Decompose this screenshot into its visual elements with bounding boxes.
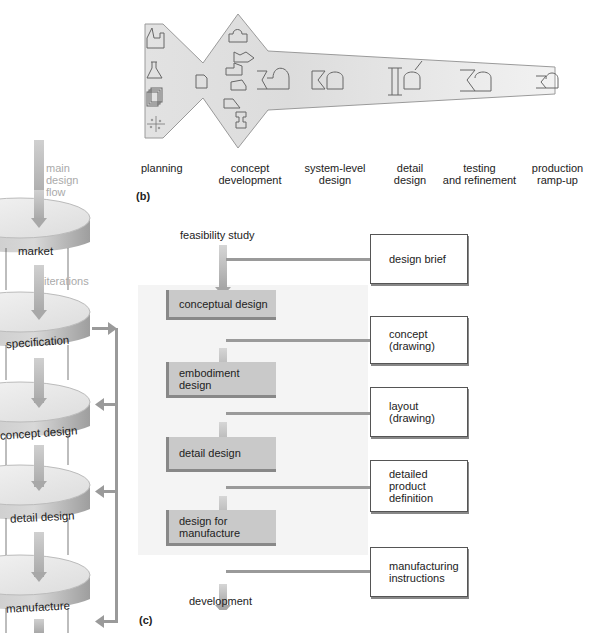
main-design-flow-label: maindesignflow bbox=[46, 162, 78, 198]
phase-label-system-level-design: system-leveldesign bbox=[295, 162, 375, 186]
doc-manufacturing-instructions: manufacturinginstructions bbox=[370, 547, 468, 597]
stage-conceptual-design: conceptual design bbox=[166, 290, 276, 320]
connector-design-brief bbox=[226, 258, 371, 261]
doc-layout-drawing: layout(drawing) bbox=[370, 387, 468, 437]
disc-market bbox=[0, 190, 90, 252]
iterations-label: iterations bbox=[44, 275, 89, 287]
doc-concept-drawing: concept(drawing) bbox=[370, 316, 468, 364]
stage-embodiment-design: embodimentdesign bbox=[166, 362, 276, 398]
disc-manufacture bbox=[0, 532, 90, 633]
stage-design-for-manufacture: design formanufacture bbox=[166, 510, 276, 546]
phase-label-concept-development: conceptdevelopment bbox=[200, 162, 300, 186]
output-development: development bbox=[189, 595, 252, 607]
doc-detailed-product-definition: detailedproductdefinition bbox=[370, 460, 468, 512]
connector-concept bbox=[226, 339, 371, 342]
connector-manufacturing-instructions bbox=[226, 570, 371, 573]
disc-label-market: market bbox=[18, 245, 53, 257]
phase-label-testing-refinement: testingand refinement bbox=[437, 162, 522, 186]
doc-design-brief: design brief bbox=[370, 234, 468, 284]
funnel-diagram bbox=[130, 0, 598, 150]
connector-layout bbox=[226, 412, 371, 415]
phase-label-production-ramp-up: productionramp-up bbox=[520, 162, 595, 186]
phase-label-planning: planning bbox=[141, 162, 183, 174]
disc-stack-diagram bbox=[0, 140, 140, 633]
feedback-loop bbox=[92, 322, 118, 628]
connector-product-definition bbox=[226, 486, 371, 489]
disc-detail-design bbox=[0, 445, 90, 519]
phase-label-detail-design: detaildesign bbox=[385, 162, 435, 186]
panel-c-tag: (c) bbox=[139, 614, 152, 626]
stage-detail-design: detail design bbox=[166, 437, 276, 472]
